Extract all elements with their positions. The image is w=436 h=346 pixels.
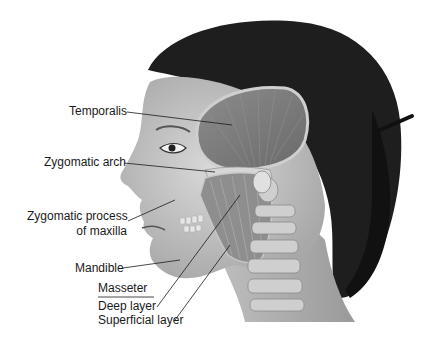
label-deep-layer: Deep layer [98,300,156,313]
label-zygomatic-process-line1: Zygomatic process [27,210,127,223]
ear-region [253,171,271,193]
head-illustration [0,0,436,346]
pupil [169,145,176,152]
label-mandible: Mandible [75,262,124,275]
label-superficial-layer: Superficial layer [98,314,183,327]
label-temporalis: Temporalis [69,105,127,118]
anatomy-figure: Temporalis Zygomatic arch Zygomatic proc… [0,0,436,346]
label-zygomatic-process-line2: of maxilla [27,225,127,238]
label-zygomatic-arch: Zygomatic arch [44,156,126,169]
label-masseter: Masseter [98,282,147,295]
